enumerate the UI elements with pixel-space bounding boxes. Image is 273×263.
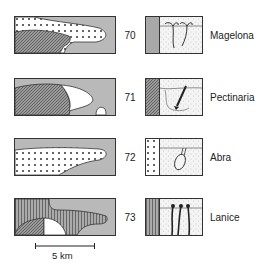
species-box-magelona: [145, 16, 203, 54]
species-box-abra: [145, 138, 203, 176]
row-number: 70: [122, 30, 138, 41]
row-number: 73: [122, 212, 138, 223]
scale-bar-label: 5 km: [52, 250, 73, 261]
row-number: 72: [122, 152, 138, 163]
scale-bar: [35, 243, 95, 249]
row-number: 71: [122, 92, 138, 103]
map-72: [14, 138, 116, 176]
species-box-pectinaria: [145, 78, 203, 116]
species-label: Magelona: [210, 30, 254, 41]
species-label: Pectinaria: [210, 92, 254, 103]
species-label: Abra: [210, 152, 231, 163]
species-label: Lanice: [210, 212, 239, 223]
map-70: [14, 16, 116, 54]
map-73: [14, 198, 116, 236]
map-71: [14, 78, 116, 116]
species-box-lanice: [145, 198, 203, 236]
